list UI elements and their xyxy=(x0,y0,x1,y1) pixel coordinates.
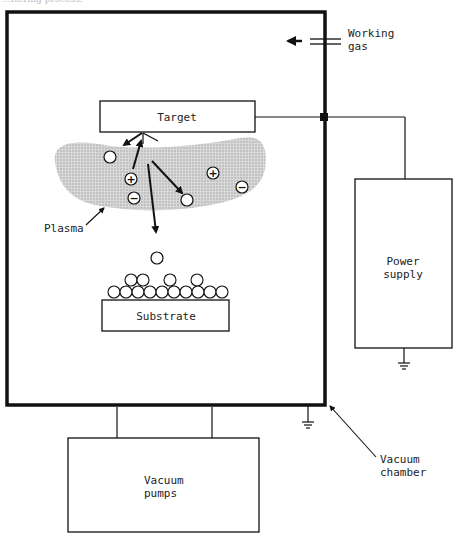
plasma-region xyxy=(55,137,266,210)
positive-ion: + xyxy=(207,167,219,180)
sputtered-atom xyxy=(151,252,163,264)
sputtered-atom xyxy=(181,194,193,206)
vacuum-pumps-label-1: Vacuum xyxy=(144,474,184,487)
negative-ion: − xyxy=(128,192,140,205)
working-gas-label-2: gas xyxy=(348,40,368,53)
ground-icon xyxy=(398,348,410,369)
deposited-film xyxy=(108,274,228,298)
svg-text:−: − xyxy=(129,192,138,205)
power-supply-label-1: Power xyxy=(386,255,419,268)
substrate-label: Substrate xyxy=(136,310,196,323)
plasma-label: Plasma xyxy=(44,222,84,235)
target-label: Target xyxy=(157,111,197,124)
sputtered-atom xyxy=(104,151,116,163)
svg-text:+: + xyxy=(208,167,217,180)
working-gas-label-1: Working xyxy=(348,27,394,40)
vacuum-chamber-label-2: chamber xyxy=(380,466,427,479)
svg-text:+: + xyxy=(126,173,135,186)
gas-arrow-icon xyxy=(286,36,296,46)
chamber-ground-icon xyxy=(302,405,314,428)
negative-ion: − xyxy=(236,181,248,194)
svg-text:−: − xyxy=(237,181,246,194)
sputtering-diagram: Working gas Target Power supply xyxy=(0,0,456,538)
power-supply-label-2: supply xyxy=(383,268,423,281)
wire-junction xyxy=(320,113,328,121)
vacuum-chamber-label-1: Vacuum xyxy=(380,453,420,466)
positive-ion: + xyxy=(125,173,137,186)
working-gas-inlet xyxy=(286,36,341,46)
vacuum-pumps-label-2: pumps xyxy=(144,487,177,500)
